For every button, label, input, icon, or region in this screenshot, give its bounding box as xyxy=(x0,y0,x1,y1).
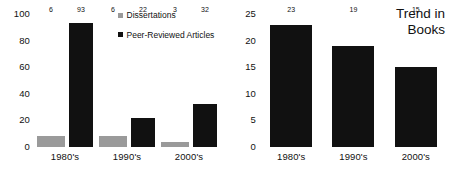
bar-rect xyxy=(37,136,65,147)
left-chart-x-axis: 1980's 1990's 2000's xyxy=(34,152,220,162)
x-axis-tick-label: 1990's xyxy=(96,152,158,162)
legend-swatch-icon xyxy=(118,32,123,37)
legend-label: Peer-Reviewed Articles xyxy=(127,30,215,41)
y-axis-tick-label: 15 xyxy=(226,62,256,72)
bar-rect xyxy=(332,46,374,147)
right-chart-panel: 25 20 15 10 5 0 23 19 xyxy=(226,0,453,178)
bar-value-label: 23 xyxy=(287,6,295,15)
y-axis-tick-label: 25 xyxy=(226,9,256,19)
bar-peer-reviewed-1980s[interactable]: 93 xyxy=(69,14,93,147)
x-axis-tick-label: 2000's xyxy=(158,152,220,162)
chart-title-line-1: Trend in xyxy=(345,6,445,22)
bar-rect xyxy=(193,104,217,147)
two-panel-bar-chart-figure: 100 80 60 40 20 0 6 93 xyxy=(0,0,453,178)
left-chart-panel: 100 80 60 40 20 0 6 93 xyxy=(0,0,226,178)
x-axis-tick-label: 1990's xyxy=(322,152,384,162)
y-axis-tick-label: 0 xyxy=(0,142,30,152)
bar-group-1980s: 6 93 xyxy=(34,14,96,147)
x-axis-tick-label: 1980's xyxy=(34,152,96,162)
bar-books-1980s[interactable]: 23 xyxy=(270,14,312,147)
x-axis-tick-label: 1980's xyxy=(260,152,322,162)
bar-value-label: 6 xyxy=(49,6,53,15)
bar-dissertations-1980s[interactable]: 6 xyxy=(37,14,65,147)
legend-item-dissertations[interactable]: Dissertations xyxy=(118,10,224,21)
bar-rect xyxy=(99,136,127,147)
bar-rect xyxy=(69,23,93,147)
y-axis-tick-label: 5 xyxy=(226,116,256,126)
x-axis-tick-label: 2000's xyxy=(385,152,447,162)
right-chart-y-axis: 25 20 15 10 5 0 xyxy=(226,0,256,178)
bar-rect xyxy=(270,25,312,147)
bar-value-label: 6 xyxy=(111,6,115,15)
legend-swatch-icon xyxy=(118,13,123,18)
right-chart-x-axis: 1980's 1990's 2000's xyxy=(260,152,447,162)
bar-rect xyxy=(395,67,437,147)
legend-label: Dissertations xyxy=(127,10,176,21)
bar-rect xyxy=(161,142,189,147)
y-axis-tick-label: 100 xyxy=(0,9,30,19)
y-axis-tick-label: 80 xyxy=(0,36,30,46)
left-chart-legend: Dissertations Peer-Reviewed Articles xyxy=(118,10,224,49)
y-axis-tick-label: 20 xyxy=(0,116,30,126)
bar-value-label: 93 xyxy=(77,6,85,15)
bar-group-books-1980s: 23 xyxy=(260,14,322,147)
chart-title-line-2: Books xyxy=(345,22,445,38)
y-axis-tick-label: 60 xyxy=(0,62,30,72)
right-chart-title: Trend in Books xyxy=(345,6,445,37)
left-chart-y-axis: 100 80 60 40 20 0 xyxy=(0,0,30,178)
y-axis-tick-label: 40 xyxy=(0,89,30,99)
y-axis-tick-label: 20 xyxy=(226,36,256,46)
y-axis-tick-label: 10 xyxy=(226,89,256,99)
legend-item-peer-reviewed-articles[interactable]: Peer-Reviewed Articles xyxy=(118,30,224,41)
bar-rect xyxy=(131,118,155,147)
y-axis-tick-label: 0 xyxy=(226,142,256,152)
